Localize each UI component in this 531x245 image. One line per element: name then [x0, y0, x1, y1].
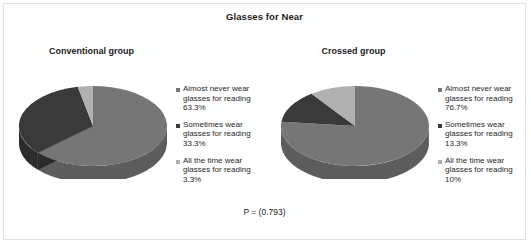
legend-item: All the time wear glasses for reading 10…: [438, 156, 524, 185]
legend-item: All the time wear glasses for reading 3.…: [176, 156, 262, 185]
legend-item-label: All the time wear glasses for reading 10…: [445, 156, 524, 185]
legend-item-label: All the time wear glasses for reading 3.…: [183, 156, 262, 185]
legend-item: Sometimes wear glasses for reading 33.3%: [176, 120, 262, 149]
pie-chart-crossed: [274, 74, 436, 179]
chart-title-crossed: Crossed group: [266, 46, 441, 56]
legend-item-label: Sometimes wear glasses for reading 33.3%: [183, 120, 262, 149]
legend-square-icon: [176, 160, 180, 164]
chart-panel-crossed: Crossed group Almost never wear glasses …: [266, 46, 526, 206]
legend-item: Sometimes wear glasses for reading 13.3%: [438, 120, 524, 149]
pie-svg-conventional: [12, 74, 174, 179]
legend-item-label: Almost never wear glasses for reading 76…: [445, 84, 524, 113]
legend-square-icon: [438, 88, 442, 92]
chart-title-conventional: Conventional group: [4, 46, 179, 56]
legend-item: Almost never wear glasses for reading 63…: [176, 84, 262, 113]
legend-crossed: Almost never wear glasses for reading 76…: [438, 84, 524, 191]
pie-svg-crossed: [274, 74, 436, 179]
legend-square-icon: [176, 124, 180, 128]
pie-chart-conventional: [12, 74, 174, 179]
legend-square-icon: [438, 124, 442, 128]
p-value-label: P = (0.793): [4, 207, 525, 217]
chart-panel-conventional: Conventional group Almost never wear gla…: [4, 46, 264, 206]
figure-container: Glasses for Near Conventional group Almo…: [3, 3, 526, 240]
legend-conventional: Almost never wear glasses for reading 63…: [176, 84, 262, 191]
figure-title: Glasses for Near: [4, 11, 525, 22]
legend-item-label: Almost never wear glasses for reading 63…: [183, 84, 262, 113]
legend-square-icon: [176, 88, 180, 92]
legend-square-icon: [438, 160, 442, 164]
legend-item-label: Sometimes wear glasses for reading 13.3%: [445, 120, 524, 149]
legend-item: Almost never wear glasses for reading 76…: [438, 84, 524, 113]
